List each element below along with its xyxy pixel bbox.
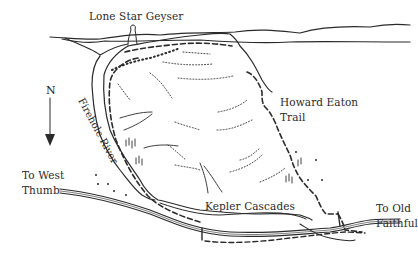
contour-hatching bbox=[118, 52, 285, 182]
gully bbox=[124, 114, 152, 130]
gully bbox=[144, 145, 178, 148]
label-to-old-faithful-1: To Old bbox=[376, 202, 411, 215]
trail-top bbox=[125, 43, 232, 52]
label-to-west-thumb-2: Thumb bbox=[22, 184, 60, 197]
shrub-dots bbox=[95, 151, 323, 196]
hill-outline bbox=[104, 46, 312, 220]
howard-eaton-trail bbox=[247, 72, 338, 214]
label-to-old-faithful-2: Faithful bbox=[376, 217, 418, 230]
gully bbox=[200, 163, 208, 193]
ridge-line-upper bbox=[50, 24, 410, 39]
trail-dotted bbox=[112, 48, 180, 70]
label-howard-eaton-trail-2: Trail bbox=[280, 111, 306, 124]
label-lone-star-geyser: Lone Star Geyser bbox=[89, 10, 183, 23]
tree-cluster-icon bbox=[126, 138, 301, 183]
label-kepler-cascades: Kepler Cascades bbox=[205, 200, 295, 213]
label-to-west-thumb-1: To West bbox=[22, 169, 64, 182]
gully bbox=[204, 166, 222, 192]
gully bbox=[120, 112, 152, 118]
compass-north-letter: N bbox=[46, 84, 56, 97]
north-arrow-head-icon bbox=[45, 134, 55, 146]
label-howard-eaton-trail-1: Howard Eaton bbox=[280, 96, 358, 109]
